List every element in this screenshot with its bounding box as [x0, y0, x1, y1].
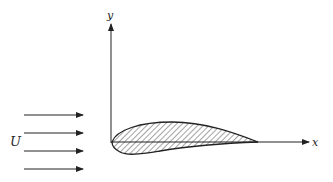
freestream-arrows — [24, 115, 83, 169]
x-axis-label: x — [312, 136, 319, 149]
airfoil-diagram: U y x — [0, 0, 333, 182]
freestream-label: U — [10, 134, 22, 149]
airfoil-shape — [112, 122, 258, 154]
y-axis-label: y — [106, 9, 114, 22]
